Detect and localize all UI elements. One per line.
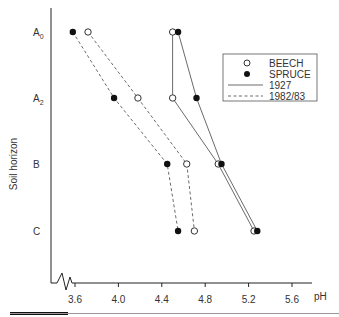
spruce-point	[175, 228, 181, 234]
x-tick-label: 3.6	[68, 294, 82, 305]
x-axis-title: pH	[314, 291, 327, 302]
legend-spruce: SPRUCE	[269, 69, 311, 80]
x-tick-label: 4.4	[155, 294, 169, 305]
y-category-label: C	[33, 226, 40, 237]
spruce-point	[111, 95, 117, 101]
spruce-point	[175, 29, 181, 35]
legend-1982: 1982/83	[269, 91, 306, 102]
divider	[10, 313, 339, 314]
y-category-label: A2	[33, 93, 44, 106]
y-axis-title: Soil horizon	[8, 138, 19, 190]
filled-circle-icon	[244, 71, 250, 77]
legend-beech: BEECH	[269, 58, 303, 69]
beech-point	[191, 228, 197, 234]
x-tick-label: 4.8	[198, 294, 212, 305]
y-category-label: A0	[33, 27, 44, 40]
spruce-point	[164, 161, 170, 167]
spruce-point	[254, 228, 260, 234]
spruce-point	[193, 95, 199, 101]
beech-point	[85, 29, 91, 35]
x-axis-break	[51, 273, 312, 290]
spruce-point	[70, 29, 76, 35]
beech-point	[184, 161, 190, 167]
spruce-point	[218, 161, 224, 167]
x-tick-label: 5.6	[285, 294, 299, 305]
series-line	[88, 32, 194, 231]
legend-1927: 1927	[269, 80, 292, 91]
x-tick-label: 5.2	[242, 294, 256, 305]
legend: BEECH SPRUCE 1927 1982/83	[223, 54, 317, 102]
y-category-label: B	[33, 159, 40, 170]
x-tick-label: 4.0	[111, 294, 125, 305]
open-circle-icon	[244, 60, 250, 66]
soil-ph-chart: 3.64.04.44.85.25.6A0A2BC BEECH SPRUCE 19…	[0, 0, 339, 317]
series-line	[73, 32, 178, 231]
beech-point	[169, 95, 175, 101]
beech-point	[135, 95, 141, 101]
